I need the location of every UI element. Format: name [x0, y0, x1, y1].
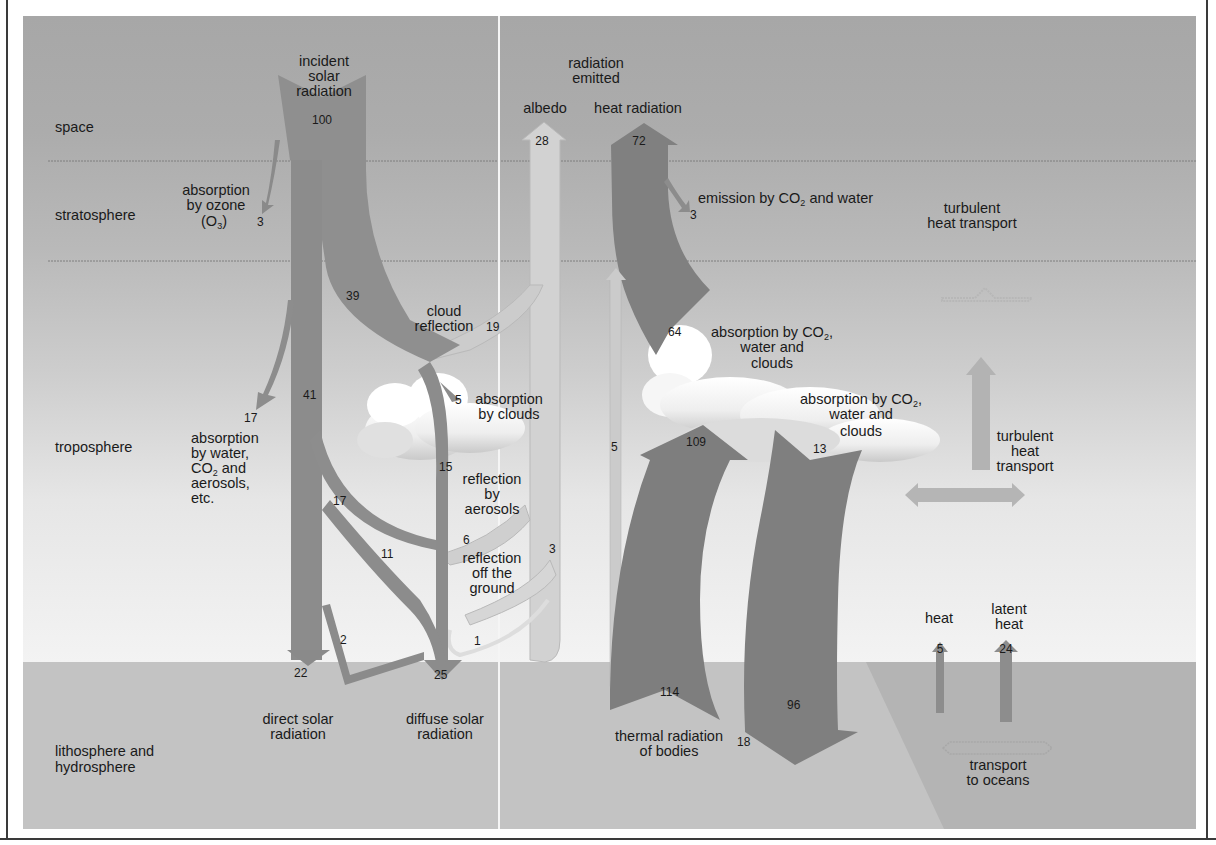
- layer-label-space: space: [55, 119, 94, 135]
- svg-text:radiation: radiation: [568, 55, 624, 71]
- svg-text:reflection: reflection: [463, 550, 522, 566]
- emission-co2-value: 3: [690, 208, 697, 222]
- svg-text:diffuse solar: diffuse solar: [406, 711, 484, 727]
- svg-text:radiation: radiation: [296, 83, 352, 99]
- svg-text:off the: off the: [472, 565, 512, 581]
- transport-to-oceans-label: transport to oceans: [967, 757, 1030, 788]
- svg-text:by: by: [484, 486, 500, 502]
- svg-text:water and: water and: [739, 339, 804, 355]
- svg-text:reflection: reflection: [415, 318, 474, 334]
- svg-text:cloud: cloud: [427, 303, 462, 319]
- layer-label-lithosphere-1: lithosphere and: [55, 743, 154, 759]
- thermal-absorption-upper-value: 64: [668, 325, 682, 339]
- flow-scattered-value: 39: [346, 289, 360, 303]
- thermal-upward-small-value: 5: [611, 440, 618, 454]
- svg-text:of bodies: of bodies: [640, 743, 699, 759]
- svg-text:by ozone: by ozone: [187, 197, 246, 213]
- svg-text:incident: incident: [299, 53, 349, 69]
- layer-label-stratosphere: stratosphere: [55, 207, 136, 223]
- albedo-label: albedo: [523, 100, 567, 116]
- svg-text:transport: transport: [996, 458, 1053, 474]
- thermal-cloud-loss-value: 13: [813, 442, 827, 456]
- latent-heat-label: latent heat: [991, 601, 1026, 632]
- cloud-reflection-value: 19: [486, 320, 500, 334]
- svg-text:heat: heat: [995, 616, 1023, 632]
- thermal-back-radiation-value: 96: [787, 698, 801, 712]
- radiation-emitted-label: radiation emitted: [568, 55, 624, 86]
- ozone-value: 3: [257, 215, 264, 229]
- svg-text:by water,: by water,: [191, 445, 249, 461]
- heat-radiation-label: heat radiation: [594, 100, 682, 116]
- svg-text:(O3): (O3): [201, 213, 227, 231]
- svg-text:ground: ground: [469, 580, 514, 596]
- svg-text:by clouds: by clouds: [478, 406, 539, 422]
- flow-tropo-absorption-value: 17: [244, 411, 258, 425]
- svg-text:absorption: absorption: [475, 391, 543, 407]
- flow-through-cloud-value: 15: [439, 460, 453, 474]
- incident-value: 100: [312, 113, 332, 127]
- svg-text:absorption: absorption: [182, 182, 250, 198]
- svg-text:etc.: etc.: [191, 490, 214, 506]
- thermal-bodies-value: 18: [737, 735, 751, 749]
- flow-scattered-lower-value: 17: [333, 494, 347, 508]
- latent-heat-value: 24: [999, 642, 1013, 656]
- svg-text:heat transport: heat transport: [927, 215, 1016, 231]
- svg-text:radiation: radiation: [270, 726, 326, 742]
- svg-text:emitted: emitted: [572, 70, 620, 86]
- flow-cloud-absorption-value: 5: [455, 393, 462, 407]
- flow-direct-ground-value: 22: [294, 666, 308, 680]
- svg-text:reflection: reflection: [463, 471, 522, 487]
- heat-radiation-value: 72: [632, 134, 646, 148]
- thermal-ground-emission-value: 114: [660, 685, 679, 699]
- svg-text:thermal radiation: thermal radiation: [615, 728, 723, 744]
- svg-text:radiation: radiation: [417, 726, 473, 742]
- albedo-value: 28: [535, 134, 549, 148]
- svg-text:clouds: clouds: [751, 355, 793, 371]
- svg-text:clouds: clouds: [840, 423, 882, 439]
- svg-text:transport: transport: [969, 757, 1026, 773]
- svg-text:direct solar: direct solar: [263, 711, 334, 727]
- thermal-ground-to-cloud-value: 109: [686, 435, 706, 449]
- flow-ground-reflection-value: 3: [549, 542, 556, 556]
- svg-text:aerosols,: aerosols,: [191, 475, 250, 491]
- svg-text:absorption: absorption: [191, 430, 259, 446]
- sensible-heat-value: 5: [937, 642, 944, 656]
- flow-direct-to-diffuse-value: 2: [340, 633, 347, 647]
- svg-text:latent: latent: [991, 601, 1026, 617]
- diffuse-solar-label: diffuse solar radiation: [406, 711, 484, 742]
- svg-text:turbulent: turbulent: [944, 200, 1000, 216]
- flow-aerosol-reflection-value: 6: [463, 533, 470, 547]
- earth-energy-budget-diagram: space stratosphere troposphere lithosphe…: [0, 0, 1216, 845]
- svg-text:to oceans: to oceans: [967, 772, 1030, 788]
- flow-scattered-ground-value: 11: [381, 547, 394, 561]
- flow-direct-upper-value: 41: [303, 388, 317, 402]
- direct-solar-label: direct solar radiation: [263, 711, 334, 742]
- svg-text:solar: solar: [308, 68, 340, 84]
- svg-text:aerosols: aerosols: [465, 501, 520, 517]
- layer-label-lithosphere-2: hydrosphere: [55, 759, 136, 775]
- layer-label-troposphere: troposphere: [55, 439, 132, 455]
- svg-text:heat: heat: [1011, 443, 1039, 459]
- flow-ground-reflection-small-value: 1: [474, 634, 481, 648]
- flow-diffuse-ground-value: 25: [434, 668, 448, 682]
- svg-text:turbulent: turbulent: [997, 428, 1053, 444]
- emission-co2-label: emission by CO2 and water: [698, 190, 873, 208]
- cloud-absorption-label: absorption by clouds: [475, 391, 543, 422]
- svg-text:water and: water and: [828, 406, 893, 422]
- sensible-heat-label: heat: [925, 610, 953, 626]
